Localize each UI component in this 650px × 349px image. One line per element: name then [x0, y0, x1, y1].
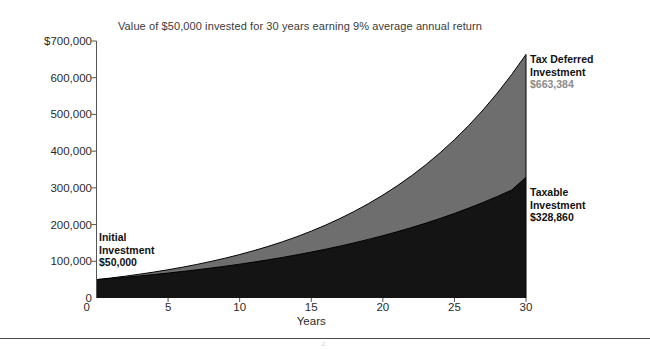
annotation-tax-deferred-value: $663,384: [530, 78, 593, 91]
annotation-tax-deferred: Tax Deferred Investment $663,384: [530, 53, 593, 91]
y-tick-label: 100,000: [6, 255, 92, 267]
x-axis-title: Years: [97, 315, 527, 327]
x-tick-label: 30: [506, 301, 546, 313]
x-tick-label: 10: [220, 301, 260, 313]
annotation-taxable-line2: Investment: [530, 199, 585, 212]
y-tick-label: 200,000: [6, 219, 92, 231]
y-tick-label: 300,000: [6, 182, 92, 194]
chart-figure: Value of $50,000 invested for 30 years e…: [0, 0, 650, 349]
y-tick-label: 400,000: [6, 145, 92, 157]
y-tick-label: 600,000: [6, 72, 92, 84]
annotation-taxable-value: $328,860: [530, 211, 585, 224]
annotation-tax-deferred-line1: Tax Deferred: [530, 53, 593, 66]
footer-divider: [0, 338, 650, 339]
annotation-initial-investment: Initial Investment $50,000: [99, 231, 154, 269]
annotation-tax-deferred-line2: Investment: [530, 66, 593, 79]
annotation-initial-line2: Investment: [99, 244, 154, 257]
page-marker: 2: [322, 341, 325, 347]
y-axis-tick-labels: $700,000600,000500,000400,000300,000200,…: [0, 0, 92, 349]
y-tick-label: 500,000: [6, 108, 92, 120]
x-tick-label: 0: [72, 301, 90, 313]
annotation-initial-line1: Initial: [99, 231, 154, 244]
annotation-taxable-line1: Taxable: [530, 186, 585, 199]
annotation-initial-value: $50,000: [99, 256, 154, 269]
x-tick-label: 15: [291, 301, 331, 313]
annotation-taxable: Taxable Investment $328,860: [530, 186, 585, 224]
x-tick-label: 20: [363, 301, 403, 313]
x-tick-label: 25: [434, 301, 474, 313]
x-tick-label: 5: [148, 301, 188, 313]
y-tick-label: $700,000: [6, 35, 92, 47]
